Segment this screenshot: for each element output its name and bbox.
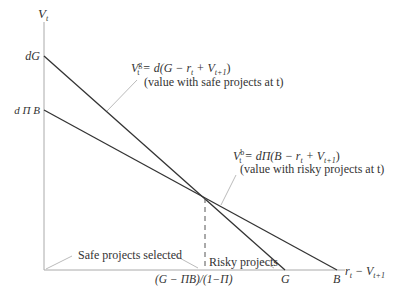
diagram: Vt dG d Π B Vgt = d(G − rt + Vt+1) (valu…	[0, 0, 399, 294]
safe-region-label: Safe projects selected	[78, 248, 182, 262]
y-axis-label: Vt	[38, 6, 49, 23]
y-tick-dG: dG	[25, 49, 40, 63]
x-tick-G: G	[281, 272, 290, 286]
x-tick-B: B	[333, 272, 341, 286]
x-axis-label: rt − Vt+1	[345, 264, 385, 280]
y-tick-dPiB: d Π B	[14, 104, 40, 116]
risky-leader-line	[221, 175, 236, 205]
safe-region-leader-left	[46, 256, 72, 269]
risky-caption: (value with risky projects at t)	[240, 162, 384, 176]
x-tick-threshold: (G − ΠB)/(1−Π)	[155, 273, 233, 286]
risky-value-line	[44, 110, 337, 270]
risky-region-label: Risky projects	[209, 255, 278, 269]
safe-leader-line	[107, 80, 137, 111]
safe-caption: (value with safe projects at t)	[144, 75, 284, 89]
